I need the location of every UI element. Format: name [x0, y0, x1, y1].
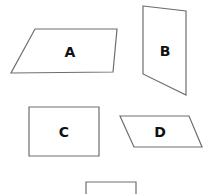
shape-a-label: A — [65, 44, 76, 60]
shape-b-label: B — [160, 43, 171, 59]
shape-e-outline — [86, 182, 136, 194]
shape-b: B — [143, 6, 186, 95]
shape-d-label: D — [154, 124, 166, 140]
shape-e — [86, 182, 136, 194]
shape-d: D — [120, 116, 202, 147]
shapes-diagram: A B C D — [0, 0, 215, 194]
shape-c-label: C — [59, 124, 69, 140]
shape-c: C — [29, 107, 99, 156]
shape-a: A — [11, 29, 117, 73]
